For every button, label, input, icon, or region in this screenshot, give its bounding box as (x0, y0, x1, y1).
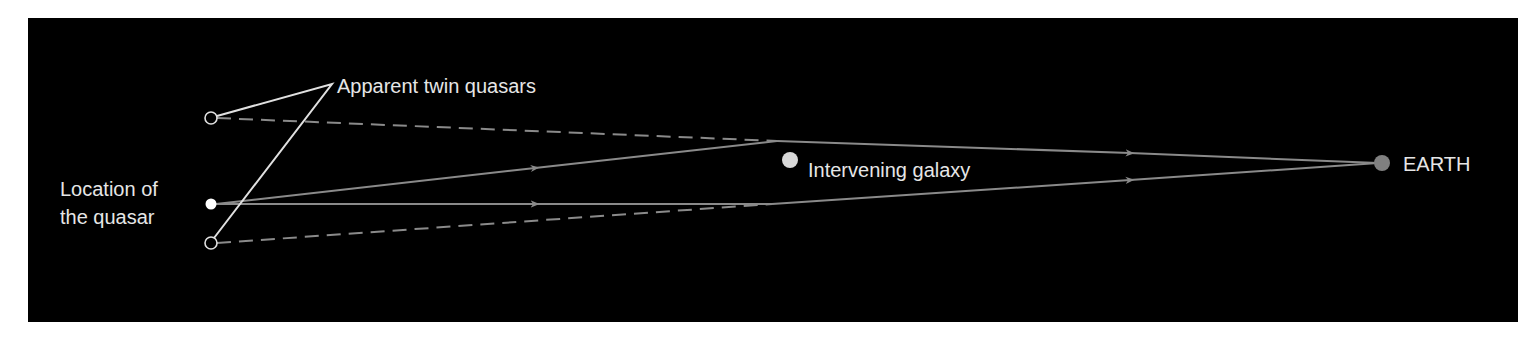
lensing-diagram: Apparent twin quasars Location of the qu… (0, 0, 1537, 345)
ray-lower-segment-2 (772, 180, 1130, 204)
galaxy-icon (782, 152, 798, 168)
quasar-location-label-line1: Location of (60, 178, 158, 200)
earth-icon (1374, 155, 1390, 171)
apparent-sightline-lower (217, 204, 772, 243)
quasar-icon (206, 199, 217, 210)
ray-upper-segment-2 (777, 141, 1130, 153)
apparent-sightline-upper (217, 118, 777, 141)
apparent-quasar-upper-icon (205, 112, 217, 124)
quasar-location-label-line2: the quasar (60, 206, 155, 228)
galaxy-label: Intervening galaxy (808, 159, 970, 181)
earth-label: EARTH (1403, 153, 1470, 175)
leader-lines (214, 84, 332, 238)
apparent-twin-quasars-label: Apparent twin quasars (337, 75, 536, 97)
apparent-quasar-lower-icon (205, 237, 217, 249)
